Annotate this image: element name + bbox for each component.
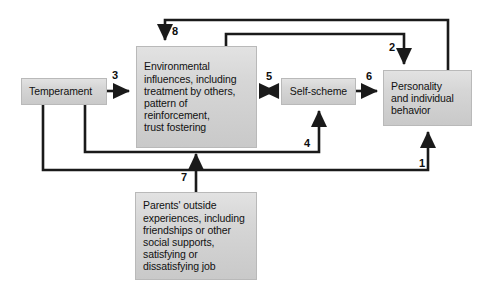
node-self-scheme-label: Self-scheme xyxy=(283,85,354,97)
edge-label-5: 5 xyxy=(266,71,272,82)
edge-label-3: 3 xyxy=(112,70,118,81)
edge-label-4: 4 xyxy=(304,138,310,149)
edge-label-7: 7 xyxy=(181,172,187,183)
node-environmental-influences: Environmental influences, including trea… xyxy=(136,46,257,148)
node-parents-label: Parents' outside experiences, including … xyxy=(136,199,252,272)
edge-label-2: 2 xyxy=(389,42,395,53)
node-parents-outside-experiences: Parents' outside experiences, including … xyxy=(135,192,257,280)
node-temperament: Temperament xyxy=(21,78,107,105)
edge-label-1: 1 xyxy=(419,158,425,169)
edge-label-8: 8 xyxy=(172,26,178,37)
personality-development-diagram: Temperament Environmental influences, in… xyxy=(0,0,493,301)
node-self-scheme: Self-scheme xyxy=(281,78,356,105)
edge-label-6: 6 xyxy=(366,71,372,82)
node-environmental-influences-label: Environmental influences, including trea… xyxy=(137,60,243,133)
node-personality-label: Personality and individual behavior xyxy=(384,80,461,117)
node-personality-and-individual-behavior: Personality and individual behavior xyxy=(383,70,472,126)
node-temperament-label: Temperament xyxy=(22,85,99,97)
